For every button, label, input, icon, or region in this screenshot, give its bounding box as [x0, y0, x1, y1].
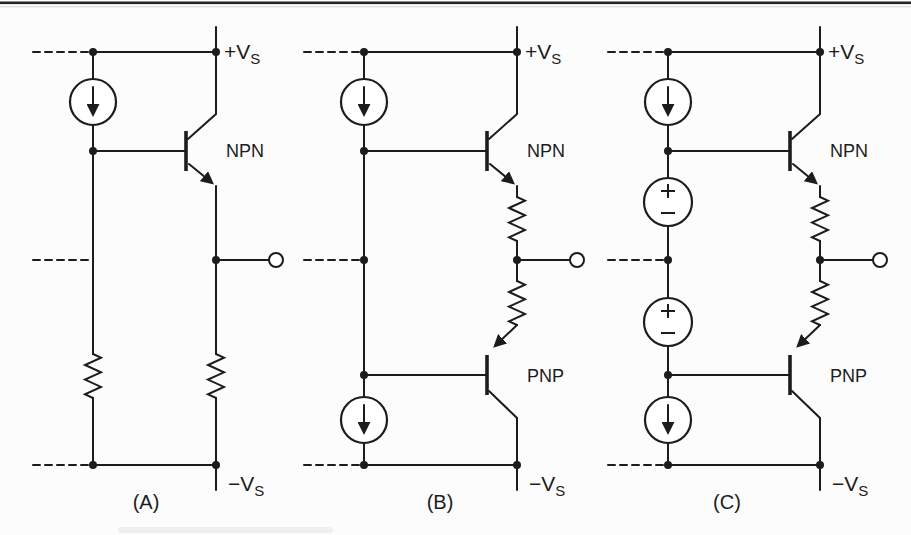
pnp-collector	[792, 391, 820, 465]
junction-dot	[513, 461, 521, 469]
npn-emitter	[793, 164, 815, 182]
bias-voltage-source-icon	[644, 178, 692, 226]
emitter-resistor-icon	[812, 281, 828, 325]
current-source-icon	[341, 397, 387, 443]
npn-collector	[489, 27, 517, 139]
junction-dot	[513, 48, 521, 56]
junction-dot	[664, 48, 672, 56]
junction-dot	[212, 461, 220, 469]
positive-supply-label: +VS	[828, 40, 864, 67]
npn-collector	[188, 27, 216, 139]
pnp-label: PNP	[527, 366, 564, 386]
circuit-panel-c: +VS NPN PNP −VS (C)	[608, 27, 887, 513]
pnp-transistor-icon	[668, 325, 820, 465]
pnp-emitter	[799, 325, 820, 345]
resistor-icon	[85, 354, 101, 398]
current-source-icon	[70, 79, 116, 125]
negative-supply-label: −VS	[529, 472, 565, 499]
output-terminal-icon	[873, 253, 887, 267]
junction-dot	[360, 461, 368, 469]
bias-voltage-source-icon	[644, 298, 692, 346]
emitter-resistor-icon	[509, 197, 525, 241]
npn-label: NPN	[226, 141, 264, 161]
page-top-rule	[0, 2, 911, 5]
junction-dot	[816, 48, 824, 56]
negative-supply-label: −VS	[832, 472, 868, 499]
npn-emitter	[490, 164, 512, 182]
current-source-icon	[341, 79, 387, 125]
junction-dot	[816, 461, 824, 469]
current-source-icon	[645, 79, 691, 125]
npn-label: NPN	[830, 141, 868, 161]
input-node-dot	[360, 256, 368, 264]
output-terminal-icon	[570, 253, 584, 267]
pnp-emitter	[496, 325, 517, 345]
junction-dot	[89, 461, 97, 469]
output-node-dot	[816, 256, 824, 264]
junction-dot	[664, 461, 672, 469]
junction-dot	[360, 147, 368, 155]
current-source-icon	[645, 397, 691, 443]
pnp-transistor-icon	[364, 325, 517, 465]
npn-collector	[792, 27, 820, 139]
panel-caption: (B)	[427, 491, 454, 513]
junction-dot	[89, 147, 97, 155]
input-node-dot	[664, 256, 672, 264]
junction-dot	[212, 48, 220, 56]
positive-supply-label: +VS	[525, 40, 561, 67]
npn-label: NPN	[527, 141, 565, 161]
junction-dot	[360, 371, 368, 379]
output-node-dot	[212, 256, 220, 264]
emitter-resistor-icon	[812, 197, 828, 241]
junction-dot	[664, 371, 672, 379]
pnp-collector	[489, 391, 517, 465]
circuit-panel-b: +VS NPN PNP −VS (B)	[304, 27, 584, 513]
pnp-label: PNP	[830, 366, 867, 386]
output-terminal-icon	[269, 253, 283, 267]
panel-caption: (A)	[133, 491, 160, 513]
negative-supply-label: −VS	[228, 472, 264, 499]
page-top-rule-echo	[0, 6, 911, 7]
positive-supply-label: +VS	[224, 40, 260, 67]
panel-caption: (C)	[713, 491, 741, 513]
junction-dot	[664, 147, 672, 155]
junction-dot	[360, 48, 368, 56]
circuit-figure: +VS NPN −VS (A)	[0, 0, 911, 535]
resistor-icon	[208, 354, 224, 398]
faded-caption-remnant	[118, 527, 333, 533]
junction-dot	[89, 48, 97, 56]
emitter-resistor-icon	[509, 281, 525, 325]
npn-emitter	[189, 164, 211, 182]
circuit-panel-a: +VS NPN −VS (A)	[33, 27, 283, 513]
output-node-dot	[513, 256, 521, 264]
